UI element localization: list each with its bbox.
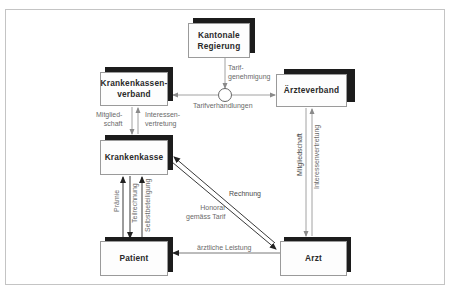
node-label: Patient bbox=[100, 241, 168, 276]
node-label: Ärzteverband bbox=[276, 74, 347, 107]
node-label: Arzt bbox=[280, 241, 347, 276]
label-kkv-interessenvertretung: Interessen- vertretung bbox=[145, 111, 180, 128]
tarifverhandlungen-node-icon bbox=[219, 89, 232, 102]
node-label: Krankenkasse bbox=[100, 140, 168, 175]
node-krankenkasse: Krankenkasse bbox=[100, 140, 168, 175]
node-patient: Patient bbox=[100, 241, 168, 276]
node-label: Krankenkassen- verband bbox=[100, 72, 168, 106]
edge-rechnung bbox=[174, 157, 275, 243]
label-honorar: Honorar gemäss Tarif bbox=[186, 204, 226, 221]
node-arzt: Arzt bbox=[280, 241, 347, 276]
label-tarifgenehmigung: Tarif- genehmigung bbox=[228, 64, 270, 81]
node-label: Kantonale Regierung bbox=[188, 23, 250, 58]
label-tarifverhandlungen: Tarifverhandlungen bbox=[193, 102, 253, 111]
label-rechnung: Rechnung bbox=[229, 190, 261, 199]
node-krankenkassenverband: Krankenkassen- verband bbox=[100, 72, 168, 106]
label-kkv-mitgliedschaft: Mitglied- schaft bbox=[96, 111, 122, 128]
node-aerzteverband: Ärzteverband bbox=[276, 74, 347, 107]
label-selbstbeteiligung: Selbstbeteiligung bbox=[144, 179, 152, 232]
label-praemie: Prämie bbox=[113, 190, 121, 212]
label-aerztliche-leistung: ärztliche Leistung bbox=[197, 244, 251, 253]
label-aev-interessenvertretung: Interessenvertretung bbox=[313, 125, 321, 189]
node-kantonale-regierung: Kantonale Regierung bbox=[188, 23, 250, 58]
label-aev-mitgliedschaft: Mitgliedschaft bbox=[296, 133, 304, 176]
label-teilrechnung: Teilrechnung bbox=[131, 183, 139, 223]
